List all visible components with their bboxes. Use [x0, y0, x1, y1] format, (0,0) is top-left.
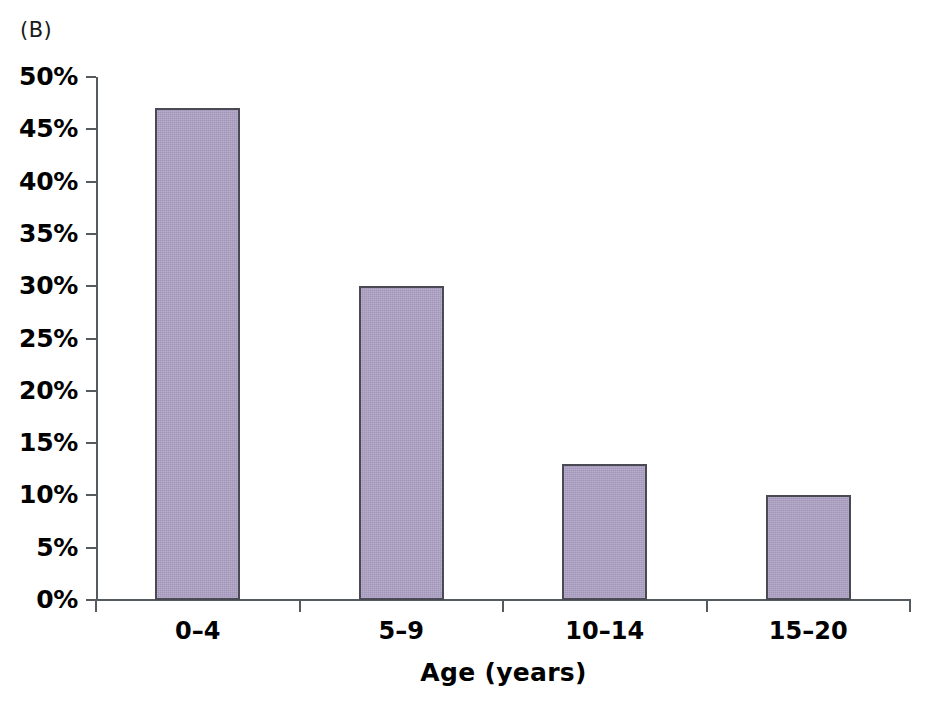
y-axis-tick-label: 45%	[0, 116, 78, 141]
y-axis-tick-mark	[86, 128, 96, 130]
x-axis-tick-mark	[299, 601, 301, 612]
y-axis-tick-mark	[86, 285, 96, 287]
y-axis-tick-label: 50%	[0, 64, 78, 89]
y-axis-tick-mark	[86, 338, 96, 340]
figure-panel-b: (B) 0%5%10%15%20%25%30%35%40%45%50% 0–45…	[0, 0, 940, 713]
x-axis-tick-mark	[502, 601, 504, 612]
y-axis-tick-label: 5%	[0, 535, 78, 560]
x-axis-tick-label: 0–4	[96, 619, 300, 643]
y-axis-tick-mark	[86, 390, 96, 392]
y-axis-tick-label: 40%	[0, 169, 78, 194]
bar	[562, 464, 647, 600]
x-axis-tick-mark	[95, 601, 97, 612]
y-axis-line	[96, 77, 98, 601]
y-axis-tick-label: 15%	[0, 430, 78, 455]
y-axis-tick-label: 30%	[0, 273, 78, 298]
y-axis-tick-mark	[86, 181, 96, 183]
y-axis-tick-mark	[86, 442, 96, 444]
bar	[766, 495, 851, 600]
y-axis-tick-mark	[86, 76, 96, 78]
y-axis-tick-mark	[86, 494, 96, 496]
y-axis-tick-label: 25%	[0, 326, 78, 351]
x-axis-tick-mark	[706, 601, 708, 612]
x-axis-tick-label: 15–20	[707, 619, 911, 643]
bar	[359, 286, 444, 600]
x-axis-tick-label: 5–9	[300, 619, 504, 643]
y-axis-tick-label: 35%	[0, 221, 78, 246]
bar-chart-plot-area: 0%5%10%15%20%25%30%35%40%45%50% 0–45–910…	[0, 0, 940, 713]
y-axis-tick-label: 20%	[0, 378, 78, 403]
x-axis-tick-label: 10–14	[503, 619, 707, 643]
x-axis-tick-mark	[909, 601, 911, 612]
bar	[155, 108, 240, 600]
y-axis-tick-label: 0%	[0, 587, 78, 612]
y-axis-tick-mark	[86, 547, 96, 549]
x-axis-title: Age (years)	[96, 660, 911, 685]
y-axis-tick-label: 10%	[0, 482, 78, 507]
y-axis-tick-mark	[86, 233, 96, 235]
